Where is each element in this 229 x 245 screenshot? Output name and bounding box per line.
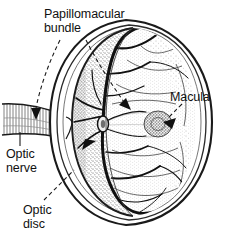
optic-disc <box>98 116 109 132</box>
label-optic-nerve: Optic nerve <box>6 148 37 175</box>
label-optic-disc: Optic disc <box>23 204 52 231</box>
eye-anatomy-figure: Papillomacular bundle Optic nerve Optic … <box>0 0 229 245</box>
label-papillomacular-bundle: Papillomacular bundle <box>44 8 125 35</box>
label-macula: Macula <box>170 91 210 105</box>
